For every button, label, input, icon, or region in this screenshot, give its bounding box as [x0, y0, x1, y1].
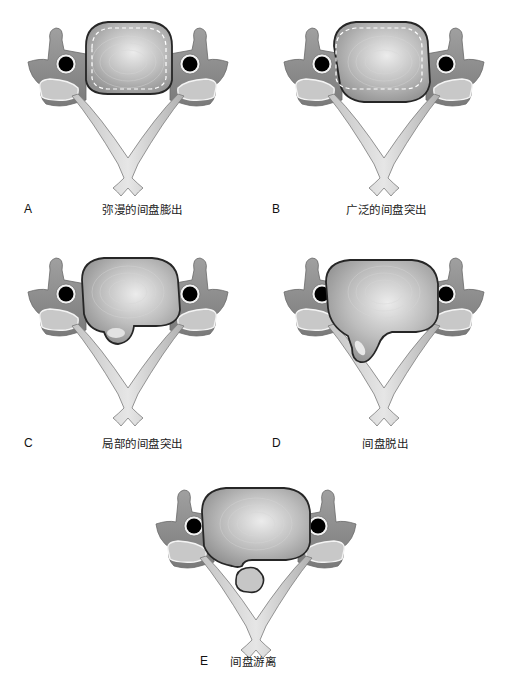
panel-letter: A [24, 202, 32, 216]
panel-letter: D [272, 436, 281, 450]
vertebra-illustration-broad-protrusion [256, 0, 511, 220]
panel-caption: 间盘脱出 [362, 435, 408, 451]
vertebra-illustration-sequestration [128, 462, 384, 662]
panel-c: C 局部的间盘突出 [0, 230, 256, 450]
disc [202, 488, 310, 567]
herniated-nucleus [107, 328, 125, 338]
panel-letter: C [24, 436, 33, 450]
panel-letter: B [272, 202, 280, 216]
disc [82, 258, 180, 344]
sequestered-fragment [236, 568, 264, 593]
panel-a: A 弥漫的间盘膨出 [0, 0, 256, 220]
panel-e: E 间盘游离 [128, 462, 384, 679]
panel-caption: 广泛的间盘突出 [346, 201, 427, 217]
panel-caption: 弥漫的间盘膨出 [102, 201, 183, 217]
vertebra-illustration-extrusion [256, 230, 511, 430]
panel-d: D 间盘脱出 [256, 230, 511, 450]
disc [86, 22, 172, 94]
disc [334, 22, 430, 102]
vertebra-illustration-focal-protrusion [0, 230, 256, 430]
panel-caption: 局部的间盘突出 [102, 435, 183, 451]
panel-caption: 间盘游离 [230, 653, 276, 669]
panel-b: B 广泛的间盘突出 [256, 0, 511, 220]
panel-letter: E [200, 654, 208, 668]
vertebra-illustration-diffuse-bulge [0, 0, 256, 220]
